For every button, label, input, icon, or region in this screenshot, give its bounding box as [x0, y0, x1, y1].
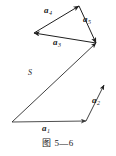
- vector-line-a4: [34, 6, 79, 33]
- vector-label-a4: a4: [44, 6, 52, 16]
- vector-label-a1: a1: [42, 124, 50, 134]
- caption-figure-char: 图: [42, 138, 51, 148]
- vector-diagram-canvas: [0, 0, 116, 156]
- figure-container: a4 a5 a3 S a2 a1 图 5—6: [0, 0, 116, 156]
- vector-line-a1: [12, 121, 86, 122]
- vector-line-a3: [34, 33, 96, 43]
- figure-caption: 图 5—6: [0, 136, 116, 149]
- vector-label-a5: a5: [83, 15, 91, 25]
- vector-label-s: S: [28, 69, 32, 77]
- vector-line-s-resultant: [12, 43, 96, 122]
- caption-figure-number: 5—6: [54, 138, 73, 148]
- vector-label-a2: a2: [92, 96, 100, 106]
- vector-label-a3: a3: [53, 38, 61, 48]
